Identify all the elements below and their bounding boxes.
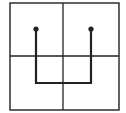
end-dot	[88, 26, 93, 31]
start-dot	[33, 26, 38, 31]
grid-path-diagram	[0, 0, 126, 113]
